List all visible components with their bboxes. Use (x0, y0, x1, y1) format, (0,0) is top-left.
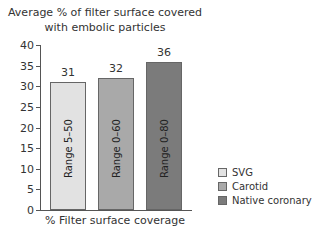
bar-range-label: Range 0–80 (159, 109, 170, 189)
legend: SVG Carotid Native coronary (218, 165, 312, 207)
legend-swatch-carotid (218, 182, 227, 191)
bar-value-label: 36 (146, 46, 182, 59)
legend-item-native-coronary: Native coronary (218, 193, 312, 207)
legend-item-svg: SVG (218, 165, 312, 179)
legend-item-carotid: Carotid (218, 179, 312, 193)
bar-range-label: Range 5–50 (63, 109, 74, 189)
legend-label: SVG (232, 167, 253, 178)
x-axis-label: % Filter surface coverage (40, 214, 190, 227)
bar-value-label: 32 (98, 62, 134, 75)
bar-range-label: Range 0–60 (111, 109, 122, 189)
legend-label: Carotid (232, 181, 268, 192)
legend-label: Native coronary (232, 195, 312, 206)
bar-value-label: 31 (50, 66, 86, 79)
legend-swatch-svg (218, 168, 227, 177)
legend-swatch-native-coronary (218, 196, 227, 205)
